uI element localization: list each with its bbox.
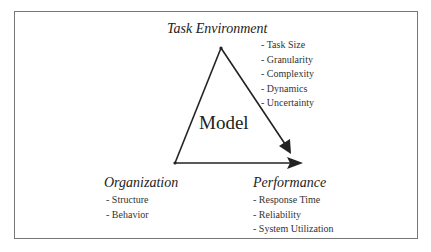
node-dot — [173, 161, 176, 164]
organization-list: - Structure - Behavior — [106, 193, 149, 222]
list-item: - Dynamics — [261, 82, 314, 97]
list-item: - Task Size — [261, 38, 314, 53]
list-item: - Structure — [106, 193, 149, 208]
list-item: - Uncertainty — [261, 96, 314, 111]
performance-list: - Response Time - Reliability - System U… — [253, 193, 334, 237]
task-environment-list: - Task Size - Granularity - Complexity -… — [261, 38, 314, 111]
edge-organization-task — [175, 48, 221, 163]
list-item: - Granularity — [261, 53, 314, 68]
organization-title: Organization — [104, 175, 178, 191]
list-item: - Response Time — [253, 193, 334, 208]
list-item: - Behavior — [106, 208, 149, 223]
node-dot — [219, 46, 222, 49]
arrowhead-icon — [279, 139, 291, 154]
list-item: - Complexity — [261, 67, 314, 82]
model-label: Model — [199, 112, 249, 134]
performance-title: Performance — [253, 175, 326, 191]
list-item: - Reliability — [253, 208, 334, 223]
task-environment-title: Task Environment — [167, 21, 267, 37]
list-item: - System Utilization — [253, 222, 334, 237]
